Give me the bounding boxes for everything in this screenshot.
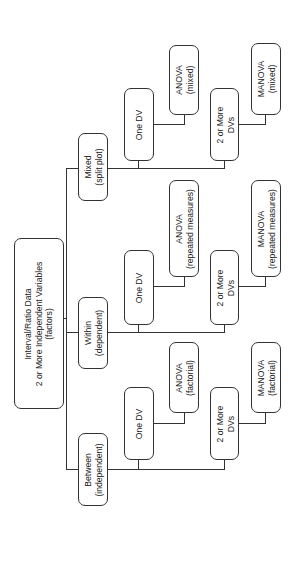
- between-anova-h: [153, 423, 184, 424]
- within-label: Within: [83, 310, 94, 356]
- root-line-1: Interval/Ratio Data: [23, 261, 34, 386]
- within-multi-dv-sublabel: DVs: [225, 269, 236, 306]
- within-manova-v: [265, 277, 266, 287]
- mixed-one-dv-stem: [138, 161, 139, 169]
- within-h-line: [108, 332, 225, 333]
- within-connector: [66, 332, 78, 333]
- between-manova-node: MANOVA(factorial): [251, 342, 281, 413]
- mixed-anova-node: ANOVA(mixed): [169, 45, 199, 115]
- within-sublabel: (dependent): [93, 310, 104, 356]
- between-label: Between: [83, 443, 94, 496]
- mixed-multi-dv-stem: [224, 161, 225, 169]
- within-anova-label: ANOVA: [174, 189, 185, 269]
- within-multi-dv-label: 2 or More: [214, 269, 225, 306]
- between-sublabel: (independent): [93, 443, 104, 496]
- between-manova-h: [238, 423, 266, 424]
- between-multi-dv-sublabel: DVs: [225, 405, 236, 442]
- mixed-connector: [66, 168, 78, 169]
- between-one-dv-node: One DV: [124, 387, 154, 460]
- between-multi-dv-stem: [224, 460, 225, 470]
- mixed-label: Mixed: [83, 148, 94, 185]
- mixed-anova-sublabel: (mixed): [184, 65, 195, 94]
- between-one-dv-label: One DV: [134, 408, 145, 439]
- within-anova-h: [153, 286, 184, 287]
- mixed-multi-dv-node: 2 or MoreDVs: [210, 88, 239, 161]
- mixed-multi-dv-label: 2 or More: [214, 106, 225, 143]
- mixed-manova-v: [265, 115, 266, 125]
- mixed-sublabel: (split plot): [93, 148, 104, 185]
- between-multi-dv-label: 2 or More: [214, 405, 225, 442]
- within-anova-sublabel: (repeated measures): [184, 189, 195, 269]
- between-node: Between(independent): [78, 433, 108, 506]
- within-one-dv-label: One DV: [134, 272, 145, 303]
- between-manova-sublabel: (factorial): [266, 359, 277, 396]
- mixed-one-dv-node: One DV: [124, 88, 154, 161]
- trunk-line: [66, 168, 67, 470]
- between-anova-v: [184, 413, 185, 424]
- mixed-anova-label: ANOVA: [174, 65, 185, 94]
- between-anova-sublabel: (factorial): [184, 360, 195, 396]
- mixed-h-line: [108, 168, 225, 169]
- within-one-dv-stem: [138, 325, 139, 333]
- root-line-2: 2 or More Independent Variables: [34, 261, 45, 386]
- within-multi-dv-node: 2 or MoreDVs: [210, 250, 239, 325]
- between-h-line: [108, 469, 225, 470]
- between-anova-label: ANOVA: [174, 360, 185, 396]
- mixed-manova-node: MANOVA(mixed): [251, 43, 281, 115]
- within-multi-dv-stem: [224, 325, 225, 333]
- root-node: Interval/Ratio Data 2 or More Independen…: [14, 238, 64, 409]
- between-multi-dv-node: 2 or MoreDVs: [210, 387, 239, 460]
- within-node: Within(dependent): [78, 297, 108, 369]
- between-anova-node: ANOVA(factorial): [169, 342, 199, 413]
- mixed-one-dv-label: One DV: [134, 109, 145, 140]
- mixed-manova-label: MANOVA: [256, 61, 267, 98]
- between-one-dv-stem: [138, 460, 139, 470]
- between-manova-v: [265, 413, 266, 424]
- within-manova-label: MANOVA: [256, 189, 267, 269]
- mixed-anova-h: [153, 124, 184, 125]
- within-manova-h: [238, 286, 266, 287]
- within-one-dv-node: One DV: [124, 250, 154, 325]
- mixed-manova-sublabel: (mixed): [266, 61, 277, 98]
- root-line-3: (factors): [44, 261, 55, 386]
- within-manova-node: MANOVA(repeated measures): [251, 180, 281, 277]
- within-anova-node: ANOVA(repeated measures): [169, 180, 199, 277]
- mixed-multi-dv-sublabel: DVs: [225, 106, 236, 143]
- mixed-manova-h: [238, 124, 266, 125]
- mixed-anova-v: [184, 115, 185, 125]
- between-connector: [66, 469, 78, 470]
- between-manova-label: MANOVA: [256, 359, 267, 396]
- within-anova-v: [184, 277, 185, 287]
- within-manova-sublabel: (repeated measures): [266, 189, 277, 269]
- mixed-node: Mixed(split plot): [78, 133, 108, 201]
